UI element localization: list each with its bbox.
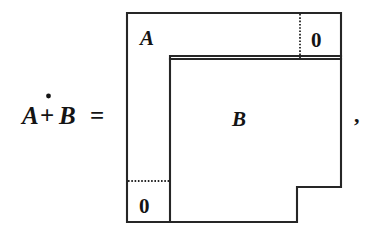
zero-top-right-label: 0	[311, 28, 322, 52]
block-a-label: A	[138, 26, 154, 50]
operand-b-text: B	[58, 102, 76, 129]
figure-background	[0, 0, 383, 234]
block-b-label: B	[231, 107, 246, 131]
equals-sign-text: =	[90, 102, 104, 129]
operator-dot	[46, 94, 51, 99]
trailing-comma: ,	[354, 102, 360, 127]
operand-a-text: A	[20, 102, 39, 129]
figure-container: A + B = A B 0 0 ,	[0, 0, 383, 234]
zero-bottom-left-label: 0	[139, 194, 150, 218]
block-matrix-diagram: A + B = A B 0 0 ,	[0, 0, 383, 234]
plus-glyph: +	[40, 102, 54, 129]
